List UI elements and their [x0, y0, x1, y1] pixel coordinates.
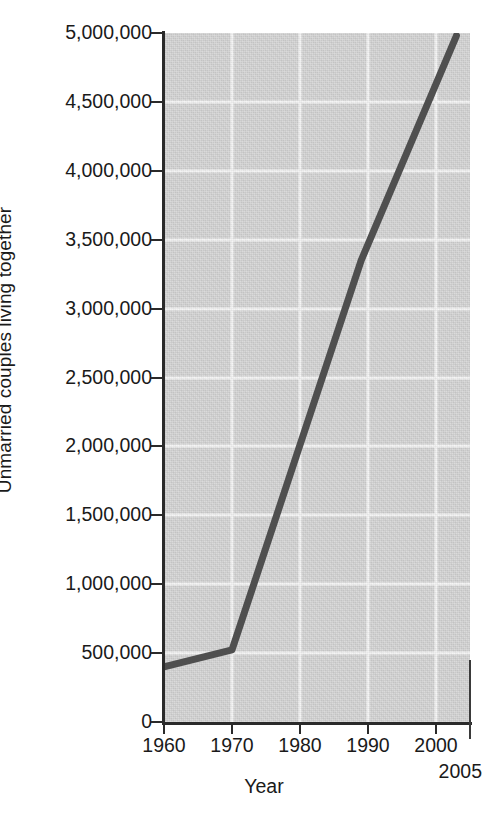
x-axis-tick-label: 2000 [414, 736, 457, 756]
x-axis-tick-label: 1980 [278, 736, 321, 756]
x-axis-tick-label: 1990 [346, 736, 389, 756]
y-axis-tick-label: 3,000,000 [12, 299, 152, 319]
y-axis-line [162, 31, 165, 724]
y-axis-tick-label: 3,500,000 [12, 230, 152, 250]
series-line-unmarried-couples [164, 36, 456, 667]
x-axis-marker-2005 [469, 660, 471, 739]
x-axis-tick-mark [299, 723, 301, 734]
x-axis-tick-label: 1970 [210, 736, 253, 756]
y-axis-tick-label: 1,000,000 [12, 574, 152, 594]
y-axis-tick-label: 0 [12, 712, 152, 732]
x-axis-tick-mark [367, 723, 369, 734]
y-axis-tick-label: 2,500,000 [12, 368, 152, 388]
x-axis-line [162, 722, 472, 725]
y-axis-tick-label: 4,000,000 [12, 161, 152, 181]
y-axis-tick-label: 1,500,000 [12, 506, 152, 526]
x-axis-title: Year [0, 775, 486, 798]
y-axis-tick-label: 4,500,000 [12, 92, 152, 112]
x-axis-tick-mark [163, 723, 165, 734]
plot-area [164, 33, 470, 722]
x-axis-tick-mark [435, 723, 437, 734]
data-series-layer [164, 33, 470, 722]
x-axis-tick-label: 1960 [142, 736, 185, 756]
y-axis-tick-label: 2,000,000 [12, 437, 152, 457]
y-axis-tick-label: 500,000 [12, 643, 152, 663]
y-axis-tick-label: 5,000,000 [12, 23, 152, 43]
line-chart: Unmarried couples living together 0500,0… [0, 0, 486, 824]
x-axis-tick-mark [231, 723, 233, 734]
y-axis-tick-labels: 0500,0001,000,0001,500,0002,000,0002,500… [12, 0, 152, 824]
